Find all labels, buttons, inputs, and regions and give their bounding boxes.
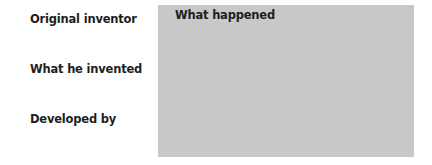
what-happened-title: What happened <box>175 8 275 22</box>
developed-by-label: Developed by <box>30 112 116 126</box>
what-happened-box: What happened <box>158 5 414 157</box>
original-inventor-label: Original inventor <box>30 12 137 26</box>
what-he-invented-label: What he invented <box>30 62 142 76</box>
